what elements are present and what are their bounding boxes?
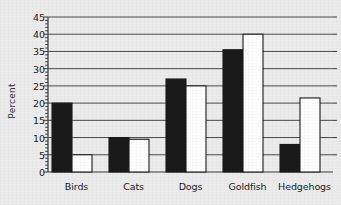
y-tick-label: 0 — [39, 167, 45, 178]
bar-birds-white — [72, 155, 92, 172]
bar-hedgehogs-black — [280, 144, 300, 172]
bar-chart: Percent 051015202530354045 BirdsCatsDogs… — [0, 0, 341, 205]
y-tick-label: 5 — [39, 149, 45, 160]
bar-cats-black — [109, 138, 129, 172]
plot-area — [0, 0, 341, 205]
x-tick-label-cats: Cats — [123, 181, 144, 192]
x-tick-label-dogs: Dogs — [179, 181, 203, 192]
y-tick-label: 40 — [33, 29, 45, 40]
bar-dogs-white — [186, 86, 206, 172]
y-tick-label: 45 — [33, 12, 45, 23]
y-tick-label: 10 — [33, 132, 45, 143]
y-tick-label: 30 — [33, 63, 45, 74]
bar-hedgehogs-white — [300, 98, 320, 172]
y-tick-label: 20 — [33, 98, 45, 109]
bar-birds-black — [52, 103, 72, 172]
x-tick-label-hedgehogs: Hedgehogs — [278, 181, 331, 192]
x-tick-label-birds: Birds — [65, 181, 88, 192]
bar-goldfish-black — [223, 50, 243, 172]
y-axis-tick-labels: 051015202530354045 — [0, 0, 45, 205]
y-tick-label: 15 — [33, 115, 45, 126]
bar-dogs-black — [166, 79, 186, 172]
y-tick-label: 35 — [33, 46, 45, 57]
y-tick-label: 25 — [33, 80, 45, 91]
bar-cats-white — [129, 139, 149, 172]
x-tick-label-goldfish: Goldfish — [229, 181, 267, 192]
bar-goldfish-white — [243, 34, 263, 172]
